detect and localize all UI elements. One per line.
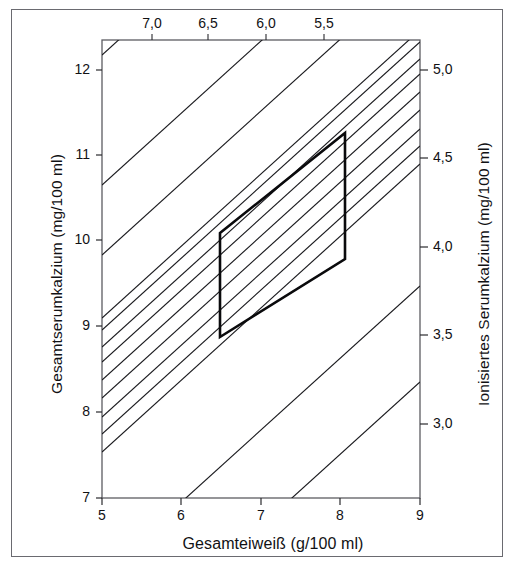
top-tick-label-6-0: 6,0 <box>249 15 283 31</box>
bottom-tick-label-6: 6 <box>166 507 196 523</box>
figure-root: 7,0 6,5 6,0 5,5 12 11 10 9 8 7 5,0 4,5 4… <box>0 0 517 575</box>
top-tick-label-6-5: 6,5 <box>191 15 225 31</box>
left-tick-label-12: 12 <box>64 61 90 77</box>
bottom-tick-label-5: 5 <box>87 507 117 523</box>
left-axis-title: Gesamtserumkalzium (mg/100 ml) <box>48 124 66 424</box>
bottom-axis-title: Gesamteiweiß (g/100 ml) <box>113 535 433 553</box>
top-tick-label-5-5: 5,5 <box>307 15 341 31</box>
bottom-tick-label-7: 7 <box>246 507 276 523</box>
left-tick-label-8: 8 <box>64 403 90 419</box>
top-tick-label-7-0: 7,0 <box>135 15 169 31</box>
right-tick-label-3-0: 3,0 <box>433 415 463 431</box>
nomogram-plot <box>12 10 501 555</box>
left-tick-label-10: 10 <box>64 231 90 247</box>
right-tick-label-5-0: 5,0 <box>433 61 463 77</box>
left-tick-label-11: 11 <box>64 146 90 162</box>
right-tick-label-3-5: 3,5 <box>433 326 463 342</box>
left-tick-label-7: 7 <box>64 489 90 505</box>
bottom-tick-label-9: 9 <box>405 507 435 523</box>
bottom-tick-label-8: 8 <box>325 507 355 523</box>
left-tick-group <box>96 70 102 498</box>
bottom-tick-group <box>102 498 420 505</box>
right-tick-group <box>420 70 428 424</box>
figure-frame: 7,0 6,5 6,0 5,5 12 11 10 9 8 7 5,0 4,5 4… <box>11 9 503 557</box>
right-axis-title: Ionisiertes Serumkalzium (mg/100 ml) <box>475 124 493 424</box>
top-tick-group <box>152 34 324 40</box>
right-tick-label-4-5: 4,5 <box>433 149 463 165</box>
left-tick-label-9: 9 <box>64 317 90 333</box>
right-tick-label-4-0: 4,0 <box>433 238 463 254</box>
